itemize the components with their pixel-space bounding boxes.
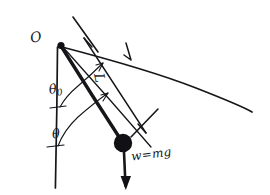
length-tick-upper	[73, 17, 98, 52]
displacement-angle-label: θ	[51, 127, 60, 141]
datum-line-arrowhead	[124, 43, 131, 60]
angle-arc-theta	[58, 93, 108, 146]
horizontal-datum-line	[62, 47, 252, 112]
vertical-reference-line	[55, 47, 57, 188]
length-dimension-line	[84, 38, 146, 133]
amplitude-ray	[62, 46, 151, 147]
amplitude-angle-subscript: 0	[56, 87, 63, 98]
pivot-point-dot	[57, 42, 64, 49]
pendulum-diagram: O L θ0 θ w=mg	[0, 0, 270, 195]
length-tick-lower	[131, 109, 158, 137]
diagram-canvas	[0, 0, 270, 195]
weight-vector-arrowhead	[121, 176, 131, 190]
angle-tick-theta-zero	[50, 106, 66, 108]
amplitude-angle-label: θ0	[48, 81, 63, 98]
